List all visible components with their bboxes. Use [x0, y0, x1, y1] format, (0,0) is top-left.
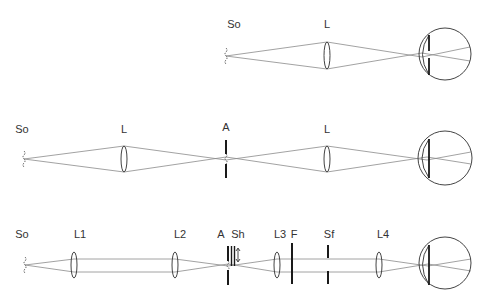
diagram-graphics — [0, 0, 492, 299]
label-lens-l2: L2 — [174, 229, 186, 240]
row3-lens-l2-icon — [172, 252, 178, 278]
label-source: So — [227, 19, 240, 30]
row3-lens-l3-icon — [274, 252, 280, 278]
label-source: So — [15, 229, 28, 240]
shutter-motion-arrow-icon — [236, 248, 240, 262]
label-lens: L — [121, 124, 127, 135]
label-filter: F — [291, 229, 298, 240]
label-lens: L — [324, 124, 330, 135]
label-shutter: Sh — [231, 229, 244, 240]
row2-aperture-icon — [225, 140, 227, 178]
row2-lens1-icon — [121, 146, 127, 172]
label-field-stop: Sf — [324, 229, 334, 240]
row3-lens-l1-icon — [71, 252, 77, 278]
optical-diagram: So L So L A L So L1 L2 A Sh L3 F Sf L4 — [0, 0, 492, 299]
label-aperture: A — [222, 122, 229, 133]
row1-lens-icon — [324, 42, 330, 69]
row3-shutter-icon — [232, 246, 235, 266]
row2-eye-icon — [418, 131, 472, 185]
row1-rays — [226, 42, 470, 69]
label-source: So — [15, 124, 28, 135]
row2-lens2-icon — [324, 146, 330, 172]
row2-rays — [24, 146, 471, 172]
label-lens-l3: L3 — [274, 229, 286, 240]
row3-lens-l4-icon — [376, 252, 382, 278]
label-lens: L — [324, 19, 330, 30]
row3-rays — [25, 259, 471, 272]
label-lens-l1: L1 — [74, 229, 86, 240]
label-lens-l4: L4 — [377, 229, 389, 240]
label-aperture: A — [217, 229, 224, 240]
